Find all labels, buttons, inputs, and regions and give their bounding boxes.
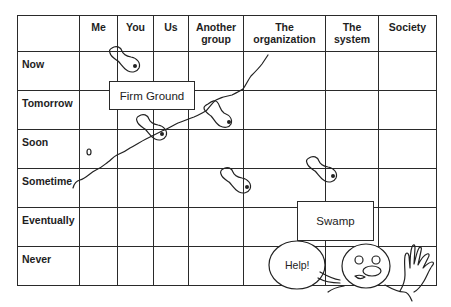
firm-ground-label: Firm Ground bbox=[109, 81, 195, 110]
diagram-stage: Me You Us Anothergroup Theorganization T… bbox=[0, 0, 451, 307]
footprint-icon bbox=[204, 101, 232, 128]
toe-icon bbox=[331, 174, 335, 178]
pebble-icon bbox=[87, 149, 91, 155]
face-icon bbox=[342, 244, 390, 288]
swamp-text: Swamp bbox=[316, 215, 354, 227]
toe-icon bbox=[133, 64, 137, 68]
toe-icon bbox=[227, 120, 231, 124]
footprint-icon bbox=[307, 157, 337, 182]
sketch-overlay bbox=[0, 0, 451, 307]
swamp-label: Swamp bbox=[297, 201, 374, 241]
firm-ground-text: Firm Ground bbox=[120, 90, 185, 102]
help-text: Help! bbox=[285, 259, 310, 271]
hand-icon bbox=[400, 245, 434, 292]
footprint-icon bbox=[110, 47, 140, 72]
wandering-path bbox=[73, 55, 268, 188]
toe-icon bbox=[245, 185, 249, 189]
footprint-icon bbox=[137, 115, 167, 140]
footprint-icon bbox=[221, 168, 251, 193]
toe-icon bbox=[160, 132, 164, 136]
